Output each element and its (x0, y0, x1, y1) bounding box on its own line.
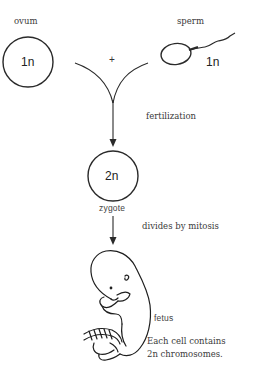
merge-curves (75, 63, 148, 147)
mitosis-arrow (110, 216, 117, 245)
arrow-down-icon (110, 237, 117, 245)
fetus-illustration (84, 251, 151, 361)
mitosis-label: divides by mitosis (142, 221, 219, 231)
fertilization-diagram: ovum 1n + sperm 1n fertilization 2n zygo… (0, 0, 253, 373)
fertilization-label: fertilization (146, 111, 196, 121)
arrow-down-icon (110, 139, 117, 147)
ovum-ploidy: 1n (21, 55, 34, 69)
fetus-label: fetus (154, 313, 173, 323)
sperm-cell-icon (160, 33, 235, 66)
zygote-label: zygote (99, 203, 125, 213)
sperm-label: sperm (177, 16, 204, 26)
fetus-note-line2: 2n chromosomes. (147, 349, 223, 359)
ovum-label: ovum (14, 16, 37, 26)
sperm-ploidy: 1n (206, 55, 219, 69)
plus-sign: + (109, 54, 115, 65)
fetus-note-line1: Each cell contains (147, 336, 226, 346)
zygote-ploidy: 2n (105, 169, 118, 183)
